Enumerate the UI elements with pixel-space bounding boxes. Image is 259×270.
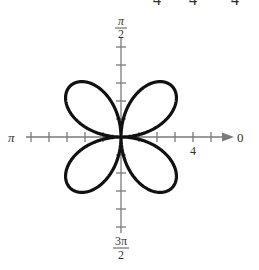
arrow-head-icon xyxy=(222,133,234,142)
angle-label-0: 0 xyxy=(237,130,244,145)
fraction-denominator: 2 xyxy=(118,27,124,41)
fragment-label: 4 xyxy=(153,0,161,8)
fraction-numerator: 3π xyxy=(115,234,127,248)
fraction-numerator: π xyxy=(118,14,125,28)
top-label-fragments: 4 4 4 xyxy=(153,0,239,8)
radial-tick-label-4: 4 xyxy=(190,144,196,158)
polar-plot: 4 4 4 0 π π 2 3π 2 4 xyxy=(0,0,259,270)
fragment-label: 4 xyxy=(189,0,197,8)
fraction-denominator: 2 xyxy=(118,248,124,262)
angle-label-pi: π xyxy=(8,130,15,145)
angle-label-pi-over-2: π 2 xyxy=(115,14,127,41)
angle-label-3pi-over-2: 3π 2 xyxy=(113,234,129,262)
fragment-label: 4 xyxy=(231,0,239,8)
